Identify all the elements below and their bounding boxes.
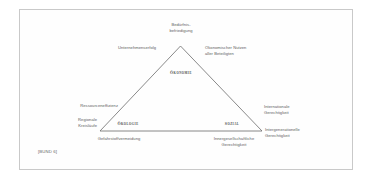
label-beduerfnisbefriedigung: Bedürfnis- befriedigung [151,22,211,33]
label-regionale-kreislaeufe: Regionale Kreisläufe [37,117,97,128]
label-unternehmenserfolg: Unternehmenserfolg [86,45,156,51]
dimension-sozial: Sozial [202,120,262,126]
dimension-oekonomie: Ökonomie [146,69,216,75]
label-oekonomischer-nutzen: Ökonomischer Nutzen aller Beteiligten [205,45,269,56]
figure-screenshot: Bedürfnis- befriedigung Unternehmenserfo… [0,0,367,180]
figure-frame [19,9,353,170]
label-gefahrstoffvermeidung: Gefahrstoffvermeidung [79,136,159,142]
label-internationale-gerechtigkeit: Internationale Gerechtigkeit [264,104,324,115]
source-citation: [BUND 6] [38,149,57,154]
label-intergenerationelle-gerechtigkeit: Intergenerationelle Gerechtigkeit [265,127,331,138]
label-innergesellschaftliche-gerechtigkeit: Innergesellschaftliche Gerechtigkeit [194,136,274,147]
dimension-oekologie: Ökologie [98,120,158,126]
label-ressourceneffizienz: Ressourceneffizienz [46,103,118,109]
